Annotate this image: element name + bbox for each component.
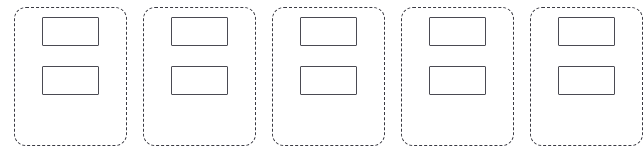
placeholder-card[interactable] — [143, 7, 256, 146]
card-slot-primary[interactable] — [558, 17, 615, 46]
placeholder-card[interactable] — [401, 7, 514, 146]
card-slot-primary[interactable] — [171, 17, 228, 46]
card-slot-secondary[interactable] — [171, 66, 228, 95]
card-slot-secondary[interactable] — [558, 66, 615, 95]
placeholder-card[interactable] — [272, 7, 385, 146]
card-slot-primary[interactable] — [429, 17, 486, 46]
card-slot-primary[interactable] — [300, 17, 357, 46]
card-slot-secondary[interactable] — [300, 66, 357, 95]
placeholder-card-row — [14, 7, 643, 146]
card-slot-primary[interactable] — [42, 17, 99, 46]
card-slot-secondary[interactable] — [429, 66, 486, 95]
card-slot-secondary[interactable] — [42, 66, 99, 95]
placeholder-card[interactable] — [14, 7, 127, 146]
placeholder-card[interactable] — [530, 7, 643, 146]
